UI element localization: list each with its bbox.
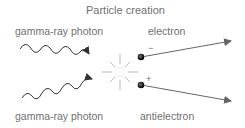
electron-arrow [144,41,231,57]
antielectron-particle-icon [138,82,145,89]
starburst-icon [102,54,138,90]
diagram-graphics [0,0,245,128]
gamma-wave-bottom [22,79,92,99]
electron-particle-icon [138,54,145,61]
antielectron-arrow [144,86,231,102]
gamma-wave-top [20,44,89,54]
